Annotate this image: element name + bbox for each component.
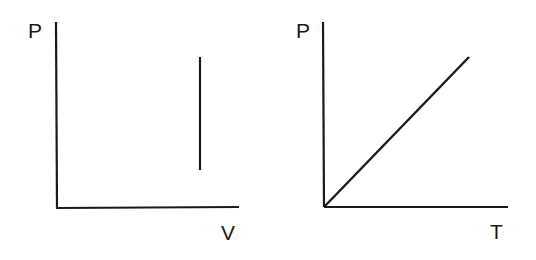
pt-proportional-line [325, 57, 469, 206]
diagram-canvas: P V P T [0, 0, 536, 260]
pt-y-label: P [296, 19, 310, 42]
pt-x-label: T [490, 220, 503, 243]
pv-x-label: V [221, 221, 235, 244]
pv-x-axis [56, 207, 239, 208]
pv-diagram: P V [28, 19, 239, 244]
pv-y-label: P [28, 19, 42, 42]
pt-diagram: P T [296, 19, 508, 243]
pv-y-axis [56, 22, 57, 208]
pt-y-axis [323, 22, 324, 207]
